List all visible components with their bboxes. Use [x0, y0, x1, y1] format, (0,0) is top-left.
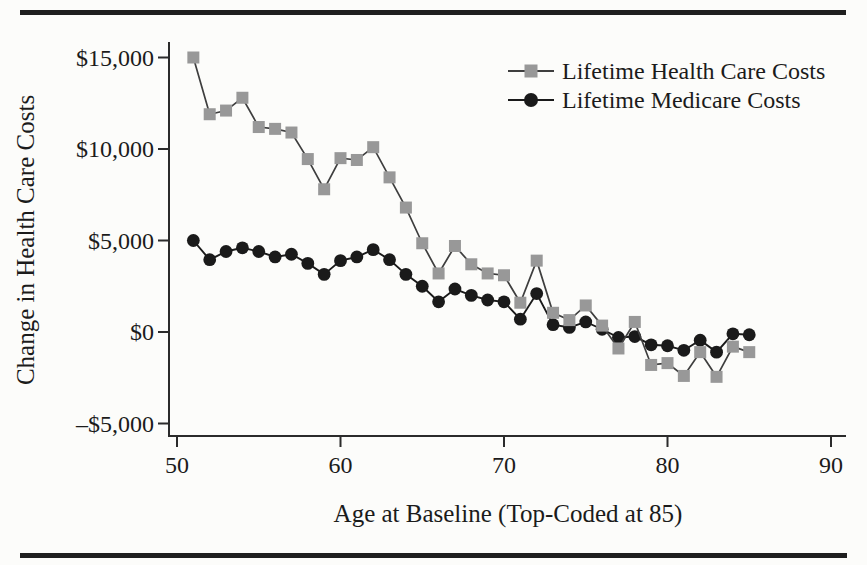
health-costs-point [367, 141, 379, 153]
y-tick-label: $15,000 [76, 45, 154, 71]
medicare-costs-point [203, 253, 216, 266]
y-tick-label: $5,000 [88, 228, 154, 254]
medicare-costs-point [334, 254, 347, 267]
health-costs-point [743, 346, 755, 358]
health-costs-point [449, 240, 461, 252]
medicare-costs-point [220, 245, 233, 258]
medicare-costs-point [694, 334, 707, 347]
health-costs-point [514, 297, 526, 309]
legend-label-medicare: Lifetime Medicare Costs [562, 87, 801, 113]
medicare-costs-point [383, 253, 396, 266]
medicare-costs-point [252, 245, 265, 258]
medicare-costs-point [743, 328, 756, 341]
medicare-costs-point [318, 268, 331, 281]
health-costs-point [384, 171, 396, 183]
health-costs-point [400, 202, 412, 214]
medicare-costs-point [285, 248, 298, 261]
health-costs-point [302, 153, 314, 165]
health-costs-point [351, 154, 363, 166]
health-costs-point [547, 307, 559, 319]
health-costs-point [416, 237, 428, 249]
health-costs-point [645, 359, 657, 371]
y-tick-label: $0 [130, 319, 154, 345]
medicare-costs-point [465, 289, 478, 302]
legend-circle-marker-icon [524, 93, 538, 107]
medicare-costs-point [400, 268, 413, 281]
health-costs-point [498, 269, 510, 281]
figure-page: $15,000$10,000$5,000$0–$5,0005060708090 … [0, 0, 867, 565]
health-costs-point [694, 346, 706, 358]
health-costs-point [269, 123, 281, 135]
medicare-costs-point [530, 287, 543, 300]
health-costs-point [711, 371, 723, 383]
medicare-costs-point [187, 234, 200, 247]
x-tick-label: 90 [819, 452, 843, 478]
health-costs-point [612, 342, 624, 354]
medicare-costs-point [514, 313, 527, 326]
bottom-rule [20, 553, 847, 558]
x-axis-title: Age at Baseline (Top-Coded at 85) [334, 500, 683, 528]
medicare-costs-point [301, 257, 314, 270]
medicare-costs-point [269, 251, 282, 264]
health-costs-point [531, 255, 543, 267]
health-costs-point [204, 108, 216, 120]
medicare-costs-point [727, 327, 740, 340]
medicare-costs-point [350, 251, 363, 264]
medicare-costs-point [677, 344, 690, 357]
health-costs-point [220, 105, 232, 117]
x-tick-label: 50 [165, 452, 189, 478]
top-rule [20, 10, 846, 15]
health-costs-point [482, 267, 494, 279]
medicare-costs-point [645, 338, 658, 351]
y-tick-label: $10,000 [76, 136, 154, 162]
health-costs-point [678, 370, 690, 382]
health-costs-point [465, 258, 477, 270]
medicare-costs-point [710, 346, 723, 359]
health-costs-point [727, 341, 739, 353]
medicare-costs-point [449, 283, 462, 296]
legend: Lifetime Health Care Costs Lifetime Medi… [508, 58, 825, 113]
medicare-costs-point [432, 295, 445, 308]
medicare-costs-point [236, 241, 249, 254]
legend-entry-health-costs: Lifetime Health Care Costs [508, 58, 825, 84]
health-costs-point [285, 127, 297, 139]
medicare-costs-point [416, 280, 429, 293]
health-costs-point [596, 320, 608, 332]
medicare-costs-point [367, 243, 380, 256]
medicare-costs-point [661, 339, 674, 352]
health-costs-point [563, 314, 575, 326]
health-costs-point [629, 316, 641, 328]
health-costs-point [253, 121, 265, 133]
legend-square-marker-icon [525, 65, 538, 78]
medicare-costs-point [498, 295, 511, 308]
legend-label-health: Lifetime Health Care Costs [562, 58, 825, 84]
health-costs-point [433, 267, 445, 279]
x-tick-label: 80 [656, 452, 680, 478]
y-tick-label: –$5,000 [75, 411, 154, 437]
health-costs-point [335, 152, 347, 164]
medicare-costs-point [481, 294, 494, 307]
x-tick-label: 70 [492, 452, 516, 478]
medicare-costs-point [579, 316, 592, 329]
health-costs-point [318, 183, 330, 195]
health-costs-point [662, 357, 674, 369]
x-tick-label: 60 [329, 452, 353, 478]
health-costs-point [580, 299, 592, 311]
cost-change-chart: $15,000$10,000$5,000$0–$5,0005060708090 … [0, 0, 867, 565]
legend-entry-medicare-costs: Lifetime Medicare Costs [508, 87, 801, 113]
y-axis-title: Change in Health Care Costs [12, 95, 39, 385]
health-costs-point [236, 92, 248, 104]
health-costs-point [187, 52, 199, 64]
medicare-costs-point [547, 318, 560, 331]
